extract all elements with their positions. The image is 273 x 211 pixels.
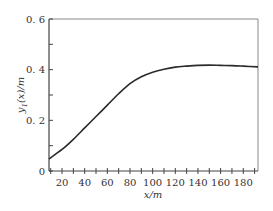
y-tick-label: 0. 6 — [26, 14, 45, 25]
plot-frame — [49, 19, 258, 171]
x-tick-label: 60 — [101, 177, 114, 188]
x-tick-label: 80 — [124, 177, 137, 188]
x-axis-label: x/m — [144, 189, 163, 200]
x-tick-label: 40 — [78, 177, 91, 188]
y-axis-label-rest: (x)/m — [15, 77, 26, 103]
data-series-line — [49, 65, 258, 159]
x-tick-label: 160 — [211, 177, 230, 188]
x-tick-label: 120 — [166, 177, 185, 188]
x-tick-label: 140 — [188, 177, 207, 188]
x-tick-label: 180 — [234, 177, 253, 188]
y-tick-label: 0. 4 — [26, 64, 45, 75]
y-tick-label: 0. 2 — [26, 115, 45, 126]
y-axis-label: y1(x)/m — [15, 77, 29, 114]
y-tick-label: 0 — [39, 166, 45, 177]
x-tick-label: 100 — [143, 177, 162, 188]
x-tick-label: 20 — [56, 177, 69, 188]
chart: 20406080100120140160180 00. 20. 40. 6 x/… — [0, 0, 273, 211]
